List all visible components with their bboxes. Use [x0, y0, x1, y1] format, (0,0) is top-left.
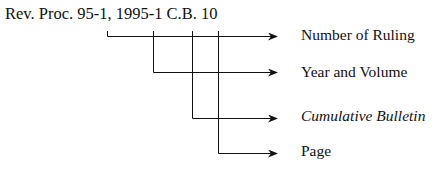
- arrow-cumulative-bulletin: [193, 31, 278, 119]
- label-number-of-ruling: Number of Ruling: [301, 26, 415, 44]
- label-page: Page: [301, 142, 331, 160]
- label-year-and-volume: Year and Volume: [301, 63, 407, 81]
- arrow-year-and-volume: [154, 31, 278, 73]
- arrow-page: [219, 31, 278, 154]
- label-cumulative-bulletin: Cumulative Bulletin: [301, 107, 425, 125]
